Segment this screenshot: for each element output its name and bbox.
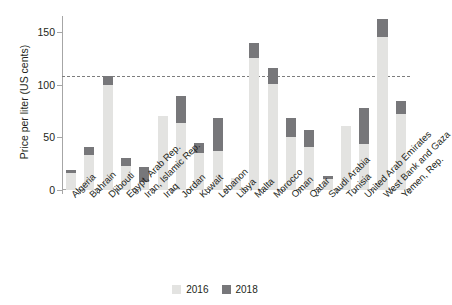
legend-label-2018: 2018 — [236, 284, 258, 295]
bar-segment-2016 — [158, 116, 168, 124]
chart-legend: 20162018 — [0, 284, 430, 295]
bar-segment-2016 — [249, 58, 259, 190]
y-tick-label-100: 100 — [37, 79, 55, 91]
y-tick-label-0: 0 — [49, 184, 55, 196]
bar-segment-2018 — [121, 158, 131, 165]
legend-swatch-2018 — [222, 285, 231, 294]
y-axis-title: Price per liter (US cents) — [18, 27, 30, 177]
bar-segment-2018 — [304, 130, 314, 147]
legend-swatch-2016 — [172, 285, 181, 294]
bar-segment-2018 — [396, 101, 406, 114]
bar-segment-2018 — [286, 118, 296, 137]
bar-segment-2018 — [84, 147, 94, 155]
bar-segment-2018 — [249, 43, 259, 58]
y-tick-label-150: 150 — [37, 26, 55, 38]
bar-segment-2018 — [66, 170, 76, 173]
bar-segment-2018 — [103, 76, 113, 84]
bar-group[interactable] — [268, 68, 278, 190]
bar-segment-2018 — [268, 68, 278, 84]
bar-segment-2018 — [377, 19, 387, 37]
bar-group[interactable] — [249, 43, 259, 190]
bar-segment-2018 — [213, 118, 223, 151]
bar-segment-2018 — [359, 108, 369, 144]
bar-segment-2018 — [176, 96, 186, 122]
bar-segment-2016 — [268, 84, 278, 191]
bar-segment-2016 — [341, 126, 351, 138]
legend-label-2016: 2016 — [186, 284, 208, 295]
legend-item-2018[interactable]: 2018 — [222, 284, 258, 295]
y-tick-label-50: 50 — [43, 131, 55, 143]
bar-group[interactable] — [377, 19, 387, 190]
legend-item-2016[interactable]: 2016 — [172, 284, 208, 295]
x-tick-0 — [62, 190, 63, 194]
